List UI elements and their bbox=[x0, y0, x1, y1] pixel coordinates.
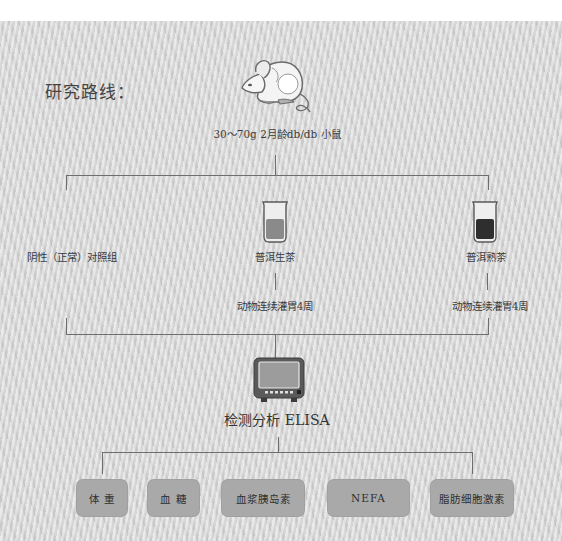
treatment-label-raw-tea: 动物连续灌胃4周 bbox=[237, 298, 314, 313]
beaker-icon bbox=[262, 201, 288, 243]
mouse-icon bbox=[238, 52, 314, 118]
group-label-ripe-tea: 普洱熟茶 bbox=[466, 249, 506, 264]
connector-line bbox=[66, 334, 489, 335]
measurement-box-body-weight: 体 重 bbox=[76, 479, 128, 517]
measurement-box-blood-glucose: 血 糖 bbox=[147, 479, 200, 517]
beaker-icon bbox=[472, 201, 498, 243]
measurement-box-nefa: NEFA bbox=[327, 479, 410, 517]
diagram-title: 研究路线： bbox=[45, 78, 135, 103]
connector-line bbox=[488, 318, 489, 334]
group-label-raw-tea: 普洱生茶 bbox=[255, 249, 295, 264]
measurement-box-plasma-insulin: 血浆胰岛素 bbox=[221, 479, 305, 517]
connector-line bbox=[487, 273, 488, 290]
connector-line bbox=[488, 175, 489, 190]
connector-line bbox=[275, 273, 276, 290]
analysis-label: 检测分析 ELISA bbox=[224, 409, 329, 429]
connector-line bbox=[278, 437, 279, 452]
connector-line bbox=[66, 175, 67, 190]
connector-line bbox=[66, 175, 488, 176]
connector-line bbox=[275, 334, 276, 359]
connector-line bbox=[102, 452, 473, 453]
group-label-control: 阴性（正常）对照组 bbox=[27, 249, 117, 264]
connector-line bbox=[275, 155, 276, 175]
subject-label: 30～70g 2月龄db/db 小鼠 bbox=[213, 126, 340, 141]
connector-line bbox=[66, 318, 67, 334]
measurement-box-adipokines: 脂肪细胞激素 bbox=[430, 479, 514, 517]
connector-line bbox=[472, 452, 473, 474]
connector-line bbox=[102, 452, 103, 474]
treatment-label-ripe-tea: 动物连续灌胃4周 bbox=[452, 298, 529, 313]
monitor-icon bbox=[253, 357, 305, 403]
